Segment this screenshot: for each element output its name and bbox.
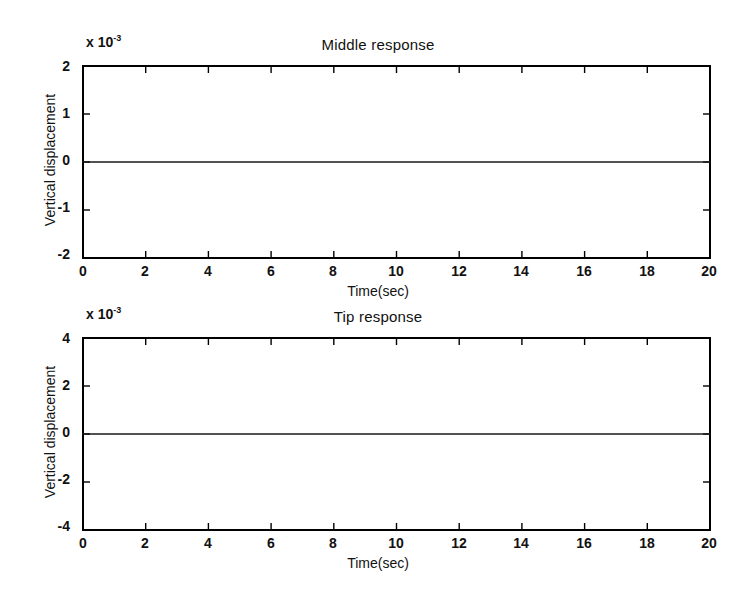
plot-axes-tip [0, 282, 756, 596]
plot-axes-middle [0, 0, 756, 300]
figure-canvas: Middle response x 10-3 Vertical displace… [0, 0, 756, 596]
plot-panel-tip-response: Tip response x 10-3 Vertical displacemen… [0, 282, 756, 596]
plot-panel-middle-response: Middle response x 10-3 Vertical displace… [0, 0, 756, 300]
